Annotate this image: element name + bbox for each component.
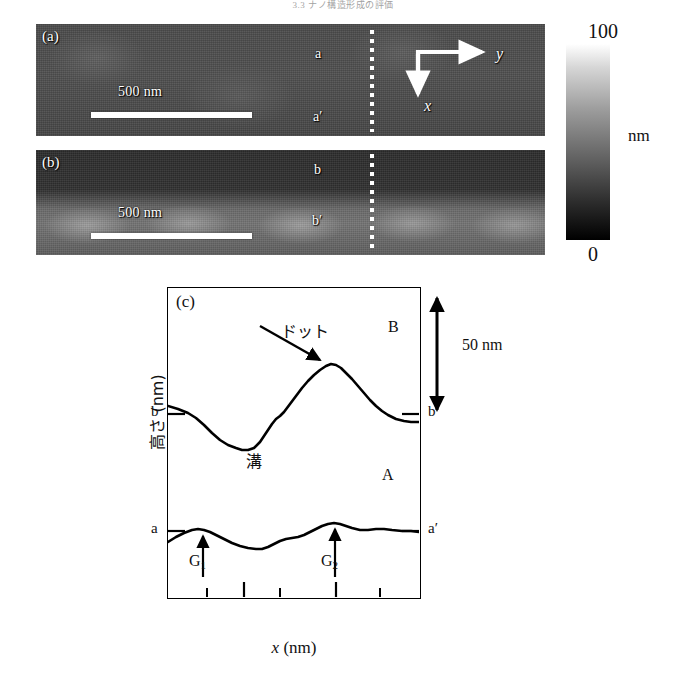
plot-left-label-a: a (151, 520, 158, 537)
height-colorbar (566, 44, 610, 240)
section-label-a-end: a′ (313, 109, 322, 125)
section-label-b-start: b (314, 162, 321, 178)
annotation-curve-a-label: A (382, 466, 394, 484)
annotation-curve-b-label: B (388, 318, 399, 336)
g1-subscript: 1 (201, 559, 207, 571)
colorbar-min-label: 0 (588, 243, 598, 266)
g2-subscript: 2 (333, 559, 339, 571)
afm-image-panel-b: (b) 500 nm b b′ (36, 150, 545, 255)
profile-curve-a (168, 523, 419, 549)
section-label-a-start: a (315, 46, 321, 62)
axis-label-x: x (424, 97, 431, 115)
g1-letter: G (189, 552, 201, 569)
scale-bar-b (91, 233, 252, 239)
annotation-groove-label: 溝 (246, 448, 262, 472)
height-scale-label: 50 nm (462, 336, 502, 354)
annotation-g2-label: G2 (321, 552, 338, 571)
profile-curve-b (168, 364, 419, 450)
section-dotted-line-a (370, 30, 374, 132)
scale-bar-label-b: 500 nm (118, 205, 162, 221)
g2-letter: G (321, 552, 333, 569)
axis-orientation-arrows (404, 38, 524, 114)
scale-bar-label-a: 500 nm (118, 84, 162, 100)
annotation-dot-label: ドット (281, 318, 329, 342)
section-dotted-line-b (370, 154, 374, 252)
figure-root: 3.3 ナノ構造形成の評価 (a) 500 nm a a′ y x (b) 50… (0, 0, 686, 677)
plot-right-label-a: a′ (428, 520, 438, 537)
panel-a-tag: (a) (42, 28, 59, 45)
section-label-b-end: b′ (312, 213, 322, 229)
plot-y-axis-label: 高さ (nm) (144, 342, 168, 482)
plot-x-axis-label: x (nm) (167, 638, 421, 658)
axis-label-y: y (496, 45, 503, 63)
running-head: 3.3 ナノ構造形成の評価 (0, 0, 686, 11)
colorbar-unit-label: nm (628, 126, 650, 146)
panel-b-tag: (b) (42, 154, 60, 171)
colorbar-max-label: 100 (588, 20, 618, 43)
panel-c-tag: (c) (176, 292, 195, 312)
height-scale-double-arrow (424, 292, 450, 417)
scale-bar-a (91, 112, 252, 118)
annotation-g1-label: G1 (189, 552, 206, 571)
afm-image-panel-a: (a) 500 nm a a′ y x (36, 24, 545, 136)
afm-noise-texture-b (36, 150, 545, 255)
